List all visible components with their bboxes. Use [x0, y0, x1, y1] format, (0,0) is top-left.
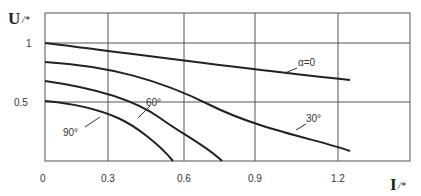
y-axis-title: U — [8, 9, 20, 28]
curve-label-60: 60° — [146, 97, 161, 108]
x-axis-subscript: /* — [397, 180, 406, 191]
curve-label-30: 30° — [306, 113, 321, 124]
chart: α=0 30° 60° 90° 1 0.5 0 0.3 0.6 0.9 1.2 … — [0, 0, 421, 196]
plot-frame — [45, 13, 410, 161]
y-tick-0.5: 0.5 — [14, 97, 28, 108]
y-tick-1: 1 — [26, 38, 32, 49]
curve-label-90: 90° — [63, 127, 78, 138]
x-axis-title: I — [390, 175, 397, 194]
curve-label-alpha-0: α=0 — [298, 57, 316, 68]
grid — [45, 13, 410, 161]
x-tick-1.2: 1.2 — [331, 173, 345, 184]
x-tick-0.3: 0.3 — [101, 173, 115, 184]
x-tick-0.6: 0.6 — [177, 173, 191, 184]
curve-60 — [45, 81, 222, 161]
x-tick-0.9: 0.9 — [248, 173, 262, 184]
x-tick-0: 0 — [40, 173, 46, 184]
y-axis-subscript: /* — [21, 14, 30, 25]
